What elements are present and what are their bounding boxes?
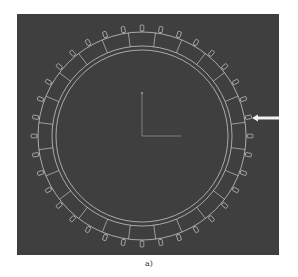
radial-spoke <box>176 40 181 53</box>
arrow-head <box>252 115 258 122</box>
radial-spoke <box>231 122 245 124</box>
radial-spoke <box>128 33 130 47</box>
ring-tab <box>32 152 39 157</box>
ring-tab <box>45 187 52 193</box>
axis-end-marker <box>141 92 143 94</box>
radial-spoke <box>154 33 156 47</box>
radial-spoke <box>79 207 88 218</box>
ring-tab <box>140 241 144 247</box>
radial-spoke <box>46 171 59 176</box>
radial-spoke <box>60 191 71 200</box>
ring-tab <box>102 31 107 38</box>
ring-tab <box>37 96 44 101</box>
ring-tab <box>158 239 163 246</box>
ring-drawing <box>0 0 298 277</box>
arrow-shaft <box>256 117 279 120</box>
radial-spoke <box>129 225 131 239</box>
radial-spoke <box>59 73 70 82</box>
radial-spoke <box>102 219 107 232</box>
arrow-indicator-icon <box>252 115 279 122</box>
ring-tab <box>240 96 247 101</box>
ring-tab <box>232 79 239 85</box>
ring-tab <box>31 134 37 138</box>
ring-tab <box>121 26 126 33</box>
radial-spoke <box>197 53 206 64</box>
ring-tab <box>85 39 91 46</box>
ring-tab <box>247 134 253 138</box>
radial-spoke <box>231 148 245 150</box>
ring-tab <box>240 170 247 175</box>
radial-spoke <box>39 148 53 150</box>
coordinate-axes <box>141 92 181 136</box>
ring-tab <box>245 115 252 120</box>
ring-tab <box>193 39 199 46</box>
ring-tab <box>32 115 39 120</box>
ring-tab <box>158 26 163 33</box>
ring-tab <box>232 187 239 193</box>
ring-tab <box>37 170 44 175</box>
radial-spoke <box>213 73 224 82</box>
radial-spoke <box>39 123 53 125</box>
radial-spoke <box>79 54 88 65</box>
ring-tab <box>245 152 252 157</box>
ring-tab <box>176 31 181 38</box>
radial-spoke <box>102 40 107 53</box>
radial-spoke <box>154 225 156 239</box>
ring-tab <box>193 226 199 233</box>
radial-spoke <box>46 96 59 101</box>
radial-spoke <box>225 170 238 175</box>
ring-tab <box>45 79 52 85</box>
radial-spoke <box>225 96 238 101</box>
ring-tab <box>102 234 107 241</box>
radial-spoke <box>213 191 224 200</box>
figure-caption: a) <box>0 259 298 268</box>
ring-tab <box>85 226 91 233</box>
radial-spoke <box>197 207 206 218</box>
radial-spoke <box>177 219 182 232</box>
ring-tab <box>121 239 126 246</box>
ring-tab <box>176 234 181 241</box>
ring-tab <box>140 25 144 31</box>
